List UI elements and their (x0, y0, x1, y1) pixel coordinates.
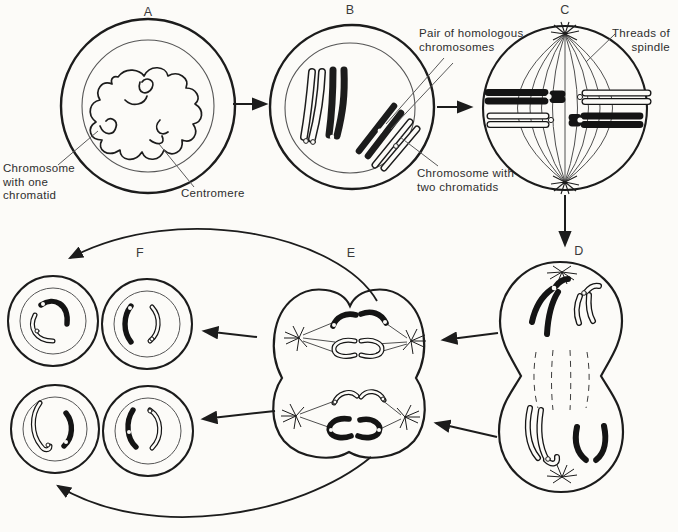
cell-d (499, 262, 623, 492)
cell-membrane (102, 279, 192, 369)
arrow-e-to-f-bottom (203, 411, 275, 419)
centromere-dot (383, 320, 387, 324)
cell-b-membrane (270, 25, 434, 189)
cell-e (273, 290, 426, 458)
chromatid-white (32, 315, 53, 341)
homologous-pair-diagonal (359, 106, 417, 168)
label-line: Chromosome (3, 162, 75, 174)
label-line: chromatid (3, 189, 56, 201)
arrow-e-to-f-top (204, 331, 257, 337)
spindle-fibres-top (303, 322, 407, 353)
centromere-dot (589, 458, 594, 463)
cell-f-bottom-left (11, 385, 99, 473)
centromere-dot (41, 302, 45, 306)
arrow-d-to-e-top (443, 333, 498, 340)
chromatid-white (33, 403, 50, 450)
chromatids-top-white (334, 340, 382, 356)
meiosis-diagram-page: Chromosome with one chromatid Centromere (0, 0, 678, 532)
arrow-d-to-e-bottom (436, 423, 497, 437)
cell-f-top-left (8, 276, 98, 366)
centromere-dot (377, 428, 381, 432)
spindle-leader-line (586, 34, 615, 62)
nuclear-envelope (20, 288, 86, 354)
chromatids-bottom-white (333, 392, 385, 404)
centromere-dot (332, 323, 336, 327)
chromatids-top-black (333, 312, 386, 326)
chromatids-bottom-black (329, 419, 379, 438)
waist-spindle-remnants (534, 350, 589, 410)
chromatid-white (150, 307, 158, 341)
cell-a-membrane (61, 19, 235, 193)
spindle-fibres-bottom (300, 400, 401, 430)
label-line: Threads of (612, 27, 670, 39)
spindle-fibres (518, 34, 613, 182)
chromosome-white-bottom-left (490, 116, 554, 125)
nuclear-envelope (115, 398, 181, 464)
aster-bottom-right (397, 405, 420, 430)
cell-a-nuclear-envelope (82, 40, 214, 172)
chromatid-black (125, 306, 131, 342)
cell-d-membrane (499, 262, 623, 492)
stage-letter-c: C (560, 3, 569, 17)
chromosome-black-top-left (488, 93, 562, 102)
centromere-dot (64, 440, 68, 444)
chromosomes-bottom-black (576, 426, 605, 460)
centromere-dot (127, 430, 131, 434)
spindle-pole-bottom (547, 465, 577, 483)
label-line: Chromosome with (417, 167, 514, 179)
cell-membrane (11, 385, 99, 473)
chromatid-white (148, 409, 160, 448)
cell-membrane (8, 276, 98, 366)
chromatid-black (128, 410, 136, 447)
chromosomes-top-white (577, 286, 599, 323)
centromere-dot (329, 428, 333, 432)
stage-letter-f: F (136, 246, 144, 260)
label-line: chromosomes (419, 41, 495, 53)
label-line: spindle (631, 41, 670, 53)
cell-membrane (103, 386, 193, 476)
aster-bottom-left (281, 404, 304, 429)
stage-letter-b: B (346, 3, 355, 17)
stage-letter-d: D (574, 244, 583, 258)
label-line: two chromatids (417, 181, 499, 193)
stage-letter-e: E (347, 246, 356, 260)
chromosomes-bottom-white (528, 408, 557, 464)
cell-f-bottom-right (103, 386, 193, 476)
centromere-dot (552, 286, 557, 291)
label-line: Pair of homologous (419, 27, 524, 39)
chromosomes-top-black (532, 279, 568, 334)
chromatin-tangle (90, 68, 201, 160)
meiosis-diagram: Chromosome with one chromatid Centromere (0, 0, 678, 532)
homologous-pair-vertical (304, 70, 345, 144)
label-line: with one (2, 176, 48, 188)
centromere-dot (128, 306, 132, 310)
cell-a (58, 19, 235, 193)
chromatid-black (41, 301, 67, 324)
chromosome-black-bottom-right (572, 116, 640, 125)
label-chromosome-two-chromatids: Chromosome with two chromatids (417, 167, 514, 193)
label-centromere: Centromere (181, 187, 245, 199)
cell-f-top-right (102, 279, 192, 369)
arrow-e-to-f-curved-bottom (58, 457, 371, 517)
stage-letter-a: A (144, 5, 153, 19)
label-chromosome-one-chromatid: Chromosome with one chromatid (2, 162, 75, 201)
